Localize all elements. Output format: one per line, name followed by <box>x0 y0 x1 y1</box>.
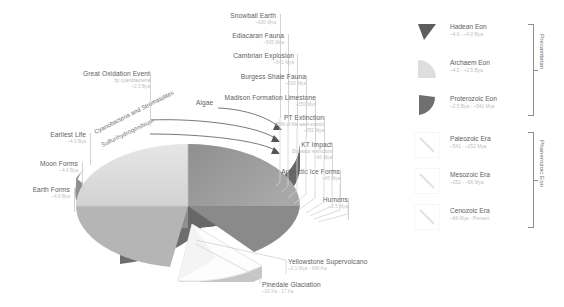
leader-bottom <box>196 236 326 292</box>
legend-item-mesozoic[interactable]: Mesozoic Era ~252 - ~66 Mya <box>408 166 558 199</box>
legend-item-cenozoic[interactable]: Cenozoic Era ~66 Mya - Present <box>408 202 558 235</box>
label-great-oxidation-event: Great Oxidation Event by cyanobacteria ~… <box>40 70 150 90</box>
leader-fan <box>276 112 354 224</box>
legend-item-hadean[interactable]: Hadean Eon ~4.6 - ~4.0 Bya <box>408 18 558 51</box>
bracket-phanerozoic-label: Phanerozoic Eon <box>539 140 546 187</box>
geologic-timeline-pie-chart: Cyanobacteria and Stromatolites Sulfurih… <box>0 0 564 307</box>
label-moon-forms: Moon Forms ~4.4 Bya <box>0 160 78 174</box>
label-snowball-earth: Snowball Earth ~600 Mya <box>190 12 276 26</box>
hadean-swatch-icon <box>414 20 440 46</box>
paleozoic-swatch-icon <box>414 132 440 158</box>
legend-item-proterozoic[interactable]: Proterozoic Eon ~2.5 Bya - ~541 Mya <box>408 90 558 123</box>
label-earth-forms: Earth Forms ~4.6 Bya <box>0 186 70 200</box>
leader-earliest-life <box>90 133 91 165</box>
mesozoic-swatch-icon <box>414 168 440 194</box>
label-earliest-life: Earliest Life ~4.0 Bya <box>0 131 86 145</box>
legend: Hadean Eon ~4.6 - ~4.0 Bya Archaem Eon ~… <box>408 18 558 233</box>
legend-item-paleozoic[interactable]: Paleozoic Era ~541 - ~252 Mya <box>408 130 558 163</box>
cenozoic-swatch-icon <box>414 204 440 230</box>
label-cambrian-explosion: Cambrian Explosion ~541 Mya <box>196 52 294 66</box>
leader-moon-forms <box>82 162 83 190</box>
proterozoic-swatch-icon <box>414 92 440 118</box>
archaean-swatch-icon <box>414 56 440 82</box>
bracket-precambrian-tick <box>534 70 538 71</box>
leader-great-oxidation <box>150 72 151 126</box>
leader-earth-forms <box>74 188 75 212</box>
label-ediacaran-fauna: Ediacaran Fauna ~565 Mya <box>196 32 284 46</box>
bracket-phanerozoic-tick <box>534 180 538 181</box>
bracket-precambrian-label: Precambrian <box>539 34 546 69</box>
label-madison-formation: Madison Formation Limestone ~350 Mya <box>190 94 316 108</box>
label-burgess-shale-fauna: Burgess Shale Fauna ~505 Mya <box>206 73 306 87</box>
